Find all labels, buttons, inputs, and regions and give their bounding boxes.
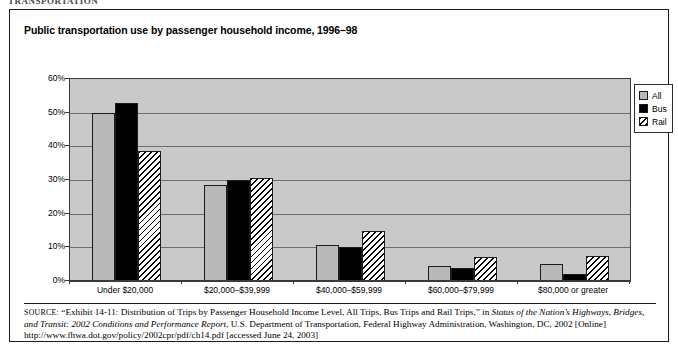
bar-bus bbox=[115, 103, 138, 281]
cropped-header-artifact: TRANSPORTATION bbox=[8, 0, 128, 4]
x-tick-mark bbox=[69, 280, 70, 284]
plot-inner bbox=[70, 79, 630, 281]
y-axis-labels: 0%10%20%30%40%50%60% bbox=[33, 78, 65, 280]
x-tick-mark bbox=[517, 280, 518, 284]
x-tick-label: $20,000–$39,999 bbox=[204, 285, 270, 295]
legend-item-all[interactable]: All bbox=[639, 89, 667, 102]
y-tick-label-30: 30% bbox=[48, 174, 65, 184]
bar-rail bbox=[474, 257, 497, 281]
bar-all bbox=[540, 264, 563, 281]
source-divider bbox=[24, 303, 656, 304]
x-tick-mark bbox=[181, 280, 182, 284]
x-axis-line bbox=[69, 280, 631, 281]
y-tick-label-10: 10% bbox=[48, 241, 65, 251]
y-tick-mark-10 bbox=[65, 246, 69, 247]
legend-label: Rail bbox=[652, 117, 667, 127]
bar-all bbox=[316, 245, 339, 281]
legend-item-rail[interactable]: Rail bbox=[639, 115, 667, 128]
x-tick-mark bbox=[629, 280, 630, 284]
black-swatch-icon bbox=[639, 104, 648, 113]
page-title: Public transportation use by passenger h… bbox=[24, 24, 357, 36]
y-tick-label-60: 60% bbox=[48, 73, 65, 83]
y-tick-mark-30 bbox=[65, 179, 69, 180]
y-tick-label-0: 0% bbox=[53, 275, 65, 285]
x-tick-label: $60,000–$79,999 bbox=[428, 285, 494, 295]
x-tick-label: $40,000–$59,999 bbox=[316, 285, 382, 295]
bar-group bbox=[294, 79, 406, 281]
bar-group bbox=[70, 79, 182, 281]
source-note: SOURCE: “Exhibit 14-11: Distribution of … bbox=[24, 307, 658, 342]
hatched-swatch-icon bbox=[639, 117, 648, 126]
source-label: SOURCE: bbox=[24, 308, 59, 317]
x-tick-label: Under $20,000 bbox=[97, 285, 153, 295]
y-tick-label-50: 50% bbox=[48, 107, 65, 117]
figure-frame: Public transportation use by passenger h… bbox=[9, 9, 669, 342]
bar-rail bbox=[362, 231, 385, 282]
y-tick-mark-20 bbox=[65, 213, 69, 214]
gray-swatch-icon bbox=[639, 91, 648, 100]
bar-bus bbox=[227, 180, 250, 281]
bar-chart: 0%10%20%30%40%50%60% AllBusRail Under $2… bbox=[23, 54, 657, 304]
bar-group bbox=[406, 79, 518, 281]
y-tick-mark-60 bbox=[65, 78, 69, 79]
bar-all bbox=[92, 113, 115, 281]
source-text-part-1: “Exhibit 14-11: Distribution of Trips by… bbox=[59, 307, 492, 317]
legend-label: All bbox=[652, 91, 661, 101]
bar-all bbox=[428, 266, 451, 281]
y-tick-label-20: 20% bbox=[48, 208, 65, 218]
x-tick-mark bbox=[405, 280, 406, 284]
plot-area bbox=[69, 78, 631, 282]
bar-rail bbox=[250, 178, 273, 281]
bar-group bbox=[182, 79, 294, 281]
y-tick-mark-50 bbox=[65, 112, 69, 113]
x-tick-mark bbox=[293, 280, 294, 284]
chart-legend: AllBusRail bbox=[634, 84, 673, 133]
bar-bus bbox=[339, 247, 362, 281]
legend-label: Bus bbox=[652, 104, 667, 114]
y-tick-mark-40 bbox=[65, 145, 69, 146]
bar-rail bbox=[586, 256, 609, 281]
y-tick-label-40: 40% bbox=[48, 140, 65, 150]
bar-all bbox=[204, 185, 227, 281]
x-tick-label: $80,000 or greater bbox=[538, 285, 608, 295]
bar-rail bbox=[138, 151, 161, 281]
bar-group bbox=[518, 79, 630, 281]
legend-item-bus[interactable]: Bus bbox=[639, 102, 667, 115]
